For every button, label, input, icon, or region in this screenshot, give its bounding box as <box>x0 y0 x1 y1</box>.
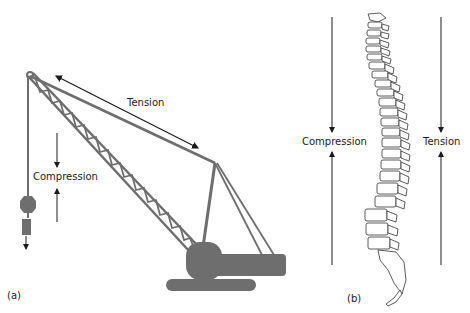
crane-body <box>192 254 286 276</box>
crane-tension-label: Tension <box>127 98 164 108</box>
spine-compression-label: Compression <box>302 137 367 147</box>
crane-compression-label: Compression <box>33 172 98 182</box>
crane-track <box>166 279 256 291</box>
figure-canvas <box>0 0 470 313</box>
load-block <box>22 219 31 235</box>
hook-ball <box>20 196 36 213</box>
tension-arrow-icon <box>56 76 198 148</box>
boom-upper-chord <box>33 73 198 246</box>
back-stay-2 <box>217 163 274 255</box>
spine-tension-label: Tension <box>423 137 460 147</box>
boom-lattice <box>36 80 194 248</box>
panel-a-caption: (a) <box>7 291 21 301</box>
mast <box>203 163 215 247</box>
back-stay-1 <box>215 163 262 255</box>
tension-cable <box>30 76 215 163</box>
spine <box>365 13 410 306</box>
panel-b-caption: (b) <box>347 294 361 304</box>
